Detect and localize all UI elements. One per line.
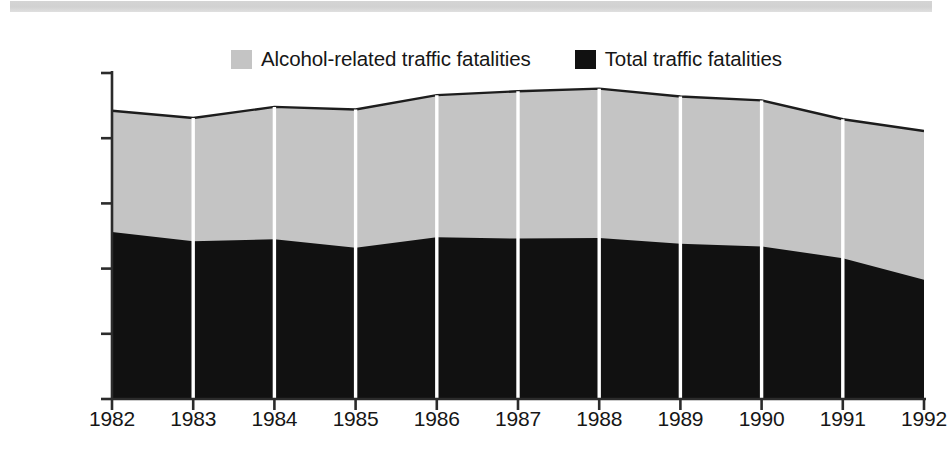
x-tick-label-1990: 1990 [739,408,785,429]
x-tick-label-1988: 1988 [576,408,622,429]
x-tick-label-1984: 1984 [251,408,297,429]
x-tick-label-1985: 1985 [333,408,379,429]
x-tick-label-1983: 1983 [170,408,216,429]
x-tick-label-1989: 1989 [657,408,703,429]
chart-area: 50,000 40,000 30,000 20,000 10,000 0 [0,0,952,457]
x-tick-label-1986: 1986 [414,408,460,429]
y-axis-ticks [101,73,112,399]
x-axis-tick-labels: 1982198319841985198619871988198919901991… [0,408,952,442]
chart-page: Alcohol-related traffic fatalities Total… [0,0,952,457]
chart-plot [0,0,952,457]
x-tick-label-1992: 1992 [901,408,947,429]
x-tick-label-1982: 1982 [89,408,135,429]
x-tick-label-1987: 1987 [495,408,541,429]
x-tick-label-1991: 1991 [820,408,866,429]
